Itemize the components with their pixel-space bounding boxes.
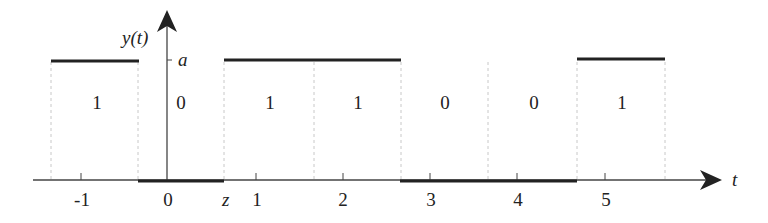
bit-label: 0 [529,92,539,113]
t-axis [33,170,722,190]
tick-label: -1 [74,189,90,210]
bit-label: 0 [440,92,450,113]
tick-label: 1 [252,189,262,210]
bit-labels: 1 0 1 1 0 0 1 [92,92,627,113]
t-axis-label: t [732,169,738,190]
z-label: z [221,189,230,210]
signal [51,59,665,181]
tick-label: 0 [163,189,173,210]
y-axis-label: y(t) [120,27,148,49]
tick-label: 5 [601,189,611,210]
level-a-label: a [178,49,188,70]
bit-label: 0 [176,92,186,113]
bit-label: 1 [92,92,102,113]
x-tick-labels: -1 0 1 2 3 4 5 [74,189,611,210]
tick-label: 2 [338,189,348,210]
waveform-diagram: y(t) a t z -1 0 1 2 3 4 5 1 0 1 1 0 0 1 [0,0,768,223]
bit-label: 1 [265,92,275,113]
bit-label: 1 [353,92,363,113]
bit-label: 1 [617,92,627,113]
bit-boundary-guides [51,62,665,180]
tick-label: 3 [426,189,436,210]
x-ticks [81,173,605,180]
tick-label: 4 [513,189,523,210]
y-axis [157,10,177,180]
